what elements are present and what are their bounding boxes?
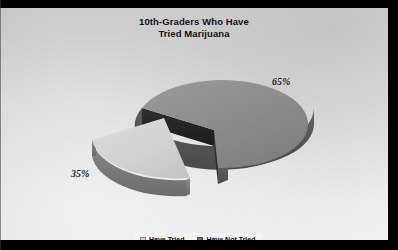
pie-chart: 65% 35% bbox=[0, 8, 388, 240]
frame-band-top bbox=[0, 0, 398, 8]
chart-legend: Have Tried Have Not Tried bbox=[133, 233, 262, 240]
pie-label-35-percent: 35% bbox=[71, 168, 89, 179]
frame-band-right bbox=[388, 0, 398, 250]
chart-screenshot: 10th-Graders Who Have Tried Marijuana bbox=[0, 0, 398, 250]
pie-chart-graphic bbox=[0, 8, 388, 240]
pie-label-65-percent: 65% bbox=[272, 76, 290, 87]
chart-plate: 10th-Graders Who Have Tried Marijuana bbox=[0, 8, 388, 240]
frame-band-bottom bbox=[0, 240, 398, 250]
frame-band-left bbox=[0, 0, 1, 250]
